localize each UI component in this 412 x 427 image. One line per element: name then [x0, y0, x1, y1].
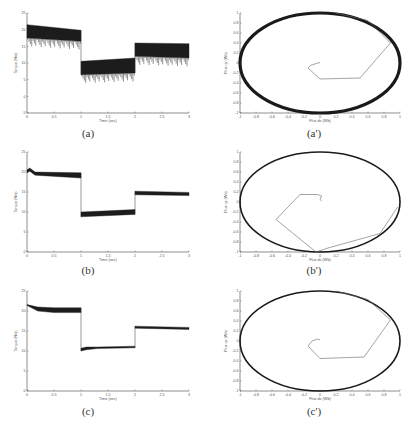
caption-a-prime: (a') [294, 127, 334, 139]
x-tick-label: -1 [238, 115, 241, 119]
x-tick-label: 0.6 [366, 115, 371, 119]
x-tick-label: 2 [134, 393, 136, 397]
y-tick-label: -0.6 [232, 91, 238, 95]
chart-panel-c: 00.511.522.530510152025Time (sec)Torque … [0, 278, 206, 420]
x-tick-label: 0.8 [382, 254, 387, 258]
y-tick-label: 20 [22, 170, 26, 174]
y-tick-label: 15 [22, 45, 26, 49]
x-tick-label: -0.8 [253, 115, 259, 119]
x-axis-label: Time (sec) [99, 119, 118, 123]
caption-b: (b) [68, 264, 108, 276]
x-tick-label: 2 [134, 115, 136, 119]
plot-b: 00.511.522.530510152025Time (sec)Torque … [0, 139, 206, 281]
plot-a-prime: -1-0.8-0.6-0.4-0.200.20.40.60.81-1-0.8-0… [206, 0, 412, 142]
torque-band [27, 168, 81, 178]
y-tick-label: 5 [24, 230, 26, 234]
y-tick-label: 1 [237, 150, 239, 154]
y-tick-label: -0.8 [232, 379, 238, 383]
x-tick-label: -1 [238, 393, 241, 397]
y-tick-label: -0.4 [232, 220, 238, 224]
x-tick-label: 0.4 [350, 115, 355, 119]
x-tick-label: 0.5 [52, 254, 57, 258]
y-tick-label: 0.4 [234, 41, 239, 45]
y-tick-label: 1 [237, 11, 239, 15]
caption-c-prime: (c') [294, 405, 334, 417]
x-tick-label: -0.4 [285, 393, 291, 397]
x-tick-label: -0.2 [301, 254, 307, 258]
y-axis-label: Flux qs (Wb) [224, 191, 228, 213]
y-tick-label: 20 [22, 28, 26, 32]
y-tick-label: -0.2 [232, 349, 238, 353]
chart-panel-b: 00.511.522.530510152025Time (sec)Torque … [0, 139, 206, 281]
flux-circle [240, 13, 400, 113]
y-tick-label: 0 [24, 389, 26, 393]
y-tick-label: 25 [22, 150, 26, 154]
y-tick-label: 0.4 [234, 319, 239, 323]
x-tick-label: 0.2 [334, 393, 339, 397]
y-tick-label: 10 [22, 61, 26, 65]
y-tick-label: 0.6 [234, 31, 239, 35]
y-tick-label: -1 [235, 250, 238, 254]
torque-band [135, 43, 189, 58]
y-tick-label: 0 [24, 250, 26, 254]
x-tick-label: 1 [399, 115, 401, 119]
x-tick-label: -0.4 [285, 115, 291, 119]
y-tick-label: 15 [22, 329, 26, 333]
y-tick-label: 5 [24, 369, 26, 373]
x-tick-label: -0.8 [253, 393, 259, 397]
torque-band [27, 25, 81, 42]
x-tick-label: 1.5 [106, 115, 111, 119]
y-tick-label: -0.8 [232, 101, 238, 105]
y-axis-label: Flux qs (Wb) [224, 330, 228, 352]
x-tick-label: 0.2 [334, 115, 339, 119]
x-tick-label: 0 [319, 115, 321, 119]
chart-panel-c-prime: -1-0.8-0.6-0.4-0.200.20.40.60.81-1-0.8-0… [206, 278, 412, 420]
y-tick-label: 5 [24, 78, 26, 82]
x-tick-label: 0 [319, 254, 321, 258]
flux-trajectory [308, 291, 390, 359]
x-tick-label: 0.2 [334, 254, 339, 258]
flux-trajectory [308, 13, 390, 79]
y-tick-label: 0.2 [234, 51, 239, 55]
y-axis-label: Torque (Nm) [14, 330, 18, 352]
x-tick-label: 0.8 [382, 393, 387, 397]
x-tick-label: 0.8 [382, 115, 387, 119]
caption-c: (c) [68, 405, 108, 417]
x-tick-label: -0.6 [269, 393, 275, 397]
x-axis-label: Flux ds (Wb) [309, 397, 331, 401]
x-tick-label: -0.6 [269, 254, 275, 258]
chart-panel-a-prime: -1-0.8-0.6-0.4-0.200.20.40.60.81-1-0.8-0… [206, 0, 412, 142]
y-axis-label: Torque (Nm) [14, 191, 18, 213]
flux-circle [240, 152, 400, 252]
y-tick-label: 20 [22, 309, 26, 313]
x-tick-label: -0.2 [301, 393, 307, 397]
y-tick-label: -0.2 [232, 210, 238, 214]
torque-band [81, 58, 135, 75]
x-tick-label: 2.5 [160, 393, 165, 397]
x-tick-label: 3 [188, 115, 190, 119]
y-tick-label: 0.6 [234, 309, 239, 313]
y-tick-label: -1 [235, 111, 238, 115]
caption-b-prime: (b') [294, 264, 334, 276]
y-tick-label: 1 [237, 289, 239, 293]
y-tick-label: -0.8 [232, 240, 238, 244]
x-tick-label: 3 [188, 393, 190, 397]
x-tick-label: -0.4 [285, 254, 291, 258]
torque-band [135, 191, 189, 195]
x-tick-label: 2 [134, 254, 136, 258]
plot-a: 00.511.522.53-50510152025Time (sec)Torqu… [0, 0, 206, 142]
flux-trajectory [276, 195, 398, 253]
y-tick-label: 0.6 [234, 170, 239, 174]
y-tick-label: -5 [22, 111, 25, 115]
x-tick-label: 1.5 [106, 393, 111, 397]
x-tick-label: 0.5 [52, 115, 57, 119]
y-tick-label: 0.4 [234, 180, 239, 184]
x-tick-label: 0 [26, 254, 28, 258]
x-tick-label: 2.5 [160, 115, 165, 119]
y-tick-label: 10 [22, 349, 26, 353]
x-tick-label: 2.5 [160, 254, 165, 258]
torque-band [27, 305, 81, 313]
x-tick-label: 0.5 [52, 393, 57, 397]
x-tick-label: -0.6 [269, 115, 275, 119]
y-axis-label: Torque (Nm) [14, 52, 18, 74]
